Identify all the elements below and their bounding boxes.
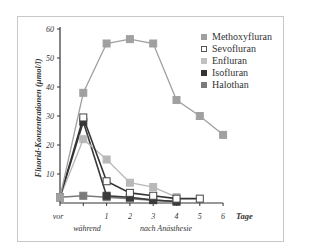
x-tick-label: 6	[221, 212, 225, 221]
legend-item-sevofluran: Sevofluran	[201, 43, 272, 55]
data-point-marker	[80, 136, 87, 143]
data-point-marker	[196, 195, 203, 202]
data-point-marker	[150, 192, 157, 199]
data-point-marker	[220, 131, 227, 138]
legend-swatch-icon	[201, 34, 207, 40]
y-tick-label: 50	[46, 54, 54, 63]
data-point-marker	[80, 89, 87, 96]
y-tick-label: 60	[46, 25, 54, 34]
data-point-marker	[150, 40, 157, 47]
legend-item-enfluran: Enfluran	[201, 55, 272, 67]
legend-label: Halothan	[212, 79, 249, 91]
legend: MethoxyfluranSevofluranEnfluranIsofluran…	[201, 31, 272, 91]
data-point-marker	[103, 40, 110, 47]
x-label-vor: vor	[53, 212, 65, 221]
y-axis-title: Fluorid-Konzentrationen (µmol/l)	[33, 58, 43, 178]
data-point-marker	[80, 114, 87, 121]
data-point-marker	[80, 192, 87, 199]
x-axis-unit-label: Tage	[236, 211, 253, 221]
x-label-waehrend: während	[73, 224, 102, 233]
series-sevofluran	[57, 114, 204, 202]
y-tick-label: 40	[46, 83, 54, 92]
legend-label: Methoxyfluran	[212, 31, 272, 43]
data-point-marker	[57, 194, 64, 201]
data-point-marker	[126, 36, 133, 43]
x-tick-label: 2	[128, 212, 132, 221]
legend-item-methoxyfluran: Methoxyfluran	[201, 31, 272, 43]
data-point-marker	[103, 192, 110, 199]
x-tick-label: 4	[175, 212, 179, 221]
data-point-marker	[173, 97, 180, 104]
legend-swatch-icon	[201, 58, 207, 64]
data-point-marker	[196, 113, 203, 120]
data-point-marker	[126, 189, 133, 196]
legend-label: Isofluran	[212, 67, 248, 79]
x-tick-label: 1	[105, 212, 109, 221]
legend-label: Sevofluran	[212, 43, 256, 55]
x-tick-label: 5	[198, 212, 202, 221]
y-tick-label: 10	[46, 170, 54, 179]
data-point-marker	[103, 178, 110, 185]
legend-swatch-icon	[201, 70, 207, 76]
data-point-marker	[126, 179, 133, 186]
axes: 102030405060123456	[45, 25, 225, 221]
x-tick-label: 3	[150, 212, 155, 221]
legend-swatch-icon	[201, 82, 207, 88]
y-tick-label: 30	[45, 112, 54, 121]
legend-item-halothan: Halothan	[201, 79, 272, 91]
x-label-nach-anaesthesie: nach Anästhesie	[140, 224, 193, 233]
legend-label: Enfluran	[212, 55, 247, 67]
data-point-marker	[103, 156, 110, 163]
data-point-marker	[173, 195, 180, 202]
legend-swatch-icon	[201, 46, 207, 52]
data-point-marker	[150, 184, 157, 191]
y-tick-label: 20	[46, 141, 54, 150]
legend-item-isofluran: Isofluran	[201, 67, 272, 79]
